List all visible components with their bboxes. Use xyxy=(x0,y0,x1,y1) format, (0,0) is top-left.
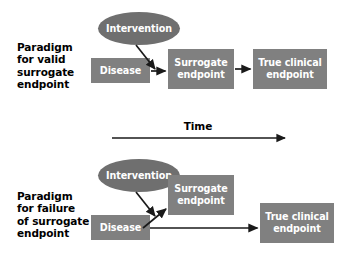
arrow-layer xyxy=(0,0,345,261)
arrow-intervention-to-pathway-valid xyxy=(136,45,155,69)
surrogate-endpoint-diagram: Paradigm for valid surrogate endpoint In… xyxy=(0,0,345,261)
arrow-intervention-to-pathway-failure xyxy=(136,192,155,216)
arrow-disease-to-surrogate-failure xyxy=(143,209,166,228)
